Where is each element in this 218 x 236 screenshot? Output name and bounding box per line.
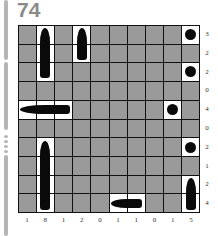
- row-clue: 2: [202, 44, 212, 63]
- submarine-icon: [167, 104, 178, 115]
- column-clue: 1: [127, 215, 145, 225]
- column-clue: 8: [36, 215, 54, 225]
- row-clue: 4: [202, 100, 212, 119]
- binding-segment: [4, 0, 8, 60]
- submarine-icon: [185, 29, 196, 40]
- row-clue: 2: [202, 138, 212, 157]
- page-binding-edge: [4, 0, 8, 236]
- column-clue: 5: [182, 215, 200, 225]
- column-clue: 1: [18, 215, 36, 225]
- binding-segment: [4, 62, 8, 130]
- row-clue: 3: [202, 25, 212, 44]
- column-clue: 1: [54, 215, 72, 225]
- column-clue: 1: [109, 215, 127, 225]
- vertical-ship-icon: [40, 141, 50, 210]
- column-clue: 1: [164, 215, 182, 225]
- column-clue: 2: [73, 215, 91, 225]
- row-clue: 0: [202, 119, 212, 138]
- binding-segment: [4, 155, 8, 236]
- submarine-icon: [185, 66, 196, 77]
- puzzle-number: 74: [17, 0, 40, 22]
- binding-dot: [4, 135, 8, 138]
- ship-overlay: [18, 25, 200, 213]
- row-clue: 2: [202, 63, 212, 82]
- horizontal-ship-icon: [111, 199, 142, 208]
- vertical-ship-icon: [186, 178, 196, 210]
- binding-dot: [4, 145, 8, 148]
- row-clue: 1: [202, 157, 212, 176]
- row-clue: 0: [202, 81, 212, 100]
- column-clue: 0: [145, 215, 163, 225]
- vertical-ship-icon: [77, 28, 87, 60]
- row-clue: 4: [202, 194, 212, 213]
- column-clue: 0: [91, 215, 109, 225]
- vertical-ship-icon: [40, 28, 50, 78]
- horizontal-ship-icon: [20, 105, 70, 114]
- binding-dot: [4, 140, 8, 143]
- row-clue: 2: [202, 175, 212, 194]
- binding-dot: [4, 150, 8, 153]
- submarine-icon: [185, 142, 196, 153]
